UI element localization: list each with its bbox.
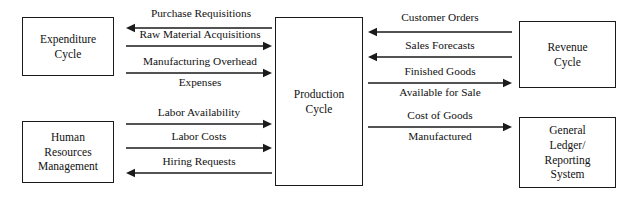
node-label-general-ledger-reporting-system: General Ledger/ Reporting System — [542, 123, 594, 182]
flow-arrow-labor-costs — [126, 142, 272, 154]
node-label-production-cycle: Production Cycle — [291, 87, 347, 116]
node-revenue-cycle: Revenue Cycle — [519, 21, 616, 88]
node-label-human-resources-management: Human Resources Management — [35, 130, 101, 174]
flow-arrow-hiring-requests — [126, 167, 272, 179]
flow-arrow-labor-availability — [126, 118, 272, 130]
flow-arrow-purchase-requisitions — [126, 22, 272, 34]
node-general-ledger-reporting-system: General Ledger/ Reporting System — [519, 117, 616, 188]
flow-label-customer-orders: Customer Orders — [368, 11, 512, 24]
data-flow-diagram: Expenditure CycleHuman Resources Managem… — [0, 0, 633, 202]
node-expenditure-cycle: Expenditure Cycle — [22, 17, 114, 76]
node-production-cycle: Production Cycle — [275, 17, 363, 186]
flow-label-purchase-requisitions: Purchase Requisitions — [128, 7, 274, 20]
flow-arrow-raw-material-acquisitions — [126, 40, 272, 52]
node-label-revenue-cycle: Revenue Cycle — [544, 40, 590, 69]
flow-arrow-sales-forecasts — [368, 51, 512, 63]
flow-arrow-manufacturing-overhead-expenses — [126, 67, 272, 79]
flow-arrow-finished-goods-available-for-sale — [368, 77, 512, 89]
node-label-expenditure-cycle: Expenditure Cycle — [37, 32, 99, 61]
flow-arrow-cost-of-goods-manufactured — [368, 121, 512, 133]
flow-arrow-customer-orders — [368, 26, 512, 38]
node-human-resources-management: Human Resources Management — [22, 121, 114, 183]
